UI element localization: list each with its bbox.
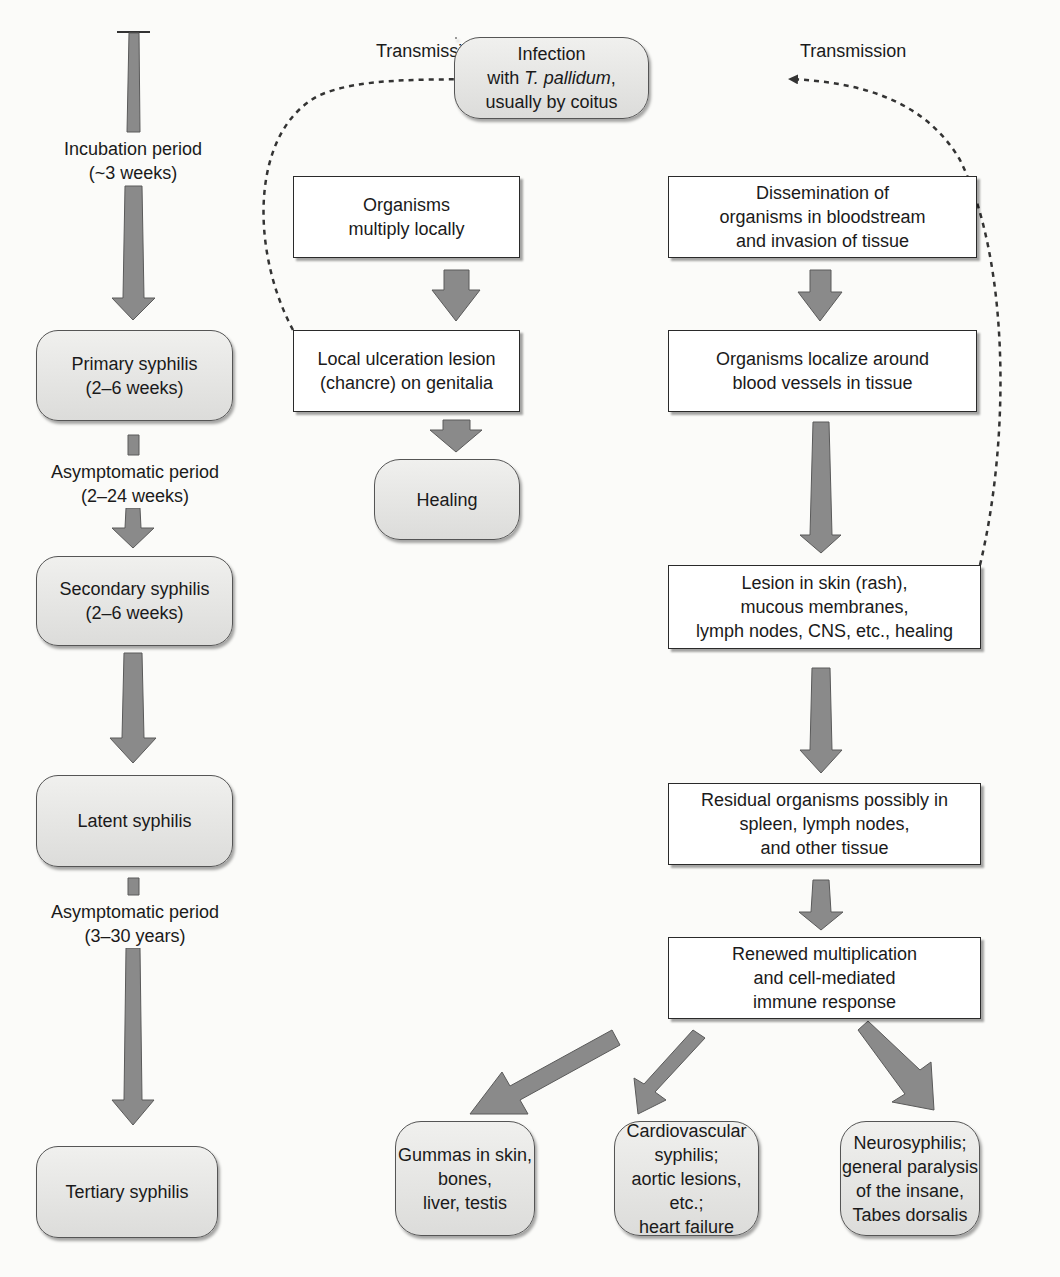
- gummas-node: Gummas in skin, bones, liver, testis: [395, 1121, 535, 1236]
- transmission-label-right: Transmission: [800, 40, 906, 62]
- timeline-arrow-primary-shaft: [128, 435, 139, 455]
- timeline-arrow-latent-shaft: [128, 878, 139, 895]
- dissemination-node: Dissemination of organisms in bloodstrea…: [668, 176, 977, 258]
- asymptomatic-period-1-label: Asymptomatic period (2–24 weeks): [30, 460, 240, 508]
- secondary-syphilis-node: Secondary syphilis (2–6 weeks): [36, 556, 233, 646]
- residual-organisms-node: Residual organisms possibly in spleen, l…: [668, 783, 981, 865]
- arrow-residual-to-renewed: [799, 880, 843, 930]
- timeline-arrow-secondary-to-latent: [110, 653, 156, 763]
- arrow-ulceration-to-healing: [430, 420, 482, 452]
- incubation-period-label: Incubation period (~3 weeks): [40, 137, 226, 185]
- asymptomatic-period-2-label: Asymptomatic period (3–30 years): [30, 900, 240, 948]
- arrow-renewed-to-cardiovascular: [634, 1030, 705, 1114]
- infection-node: Infection with T. pallidum, usually by c…: [454, 37, 649, 119]
- arrow-multiply-to-ulceration: [432, 270, 480, 321]
- organisms-localize-node: Organisms localize around blood vessels …: [668, 330, 977, 412]
- cardiovascular-syphilis-node: Cardiovascular syphilis; aortic lesions,…: [614, 1121, 759, 1236]
- neurosyphilis-node: Neurosyphilis; general paralysis of the …: [840, 1121, 980, 1236]
- arrow-lesion-to-residual: [800, 668, 842, 773]
- latent-syphilis-node: Latent syphilis: [36, 775, 233, 867]
- infection-line2: with T. pallidum,: [485, 66, 617, 90]
- local-ulceration-node: Local ulceration lesion (chancre) on gen…: [293, 330, 520, 412]
- renewed-multiplication-node: Renewed multiplication and cell-mediated…: [668, 937, 981, 1019]
- infection-node: [455, 37, 457, 39]
- arrow-dissemination-to-localize: [798, 270, 842, 321]
- arrow-renewed-to-neuro: [858, 1021, 934, 1110]
- timeline-arrow-to-tertiary: [112, 948, 154, 1125]
- tertiary-syphilis-node: Tertiary syphilis: [36, 1146, 218, 1238]
- timeline-arrow-incubation-to-primary: [112, 186, 155, 320]
- timeline-arrow-to-secondary: [112, 508, 154, 548]
- arrow-localize-to-lesion: [800, 422, 841, 553]
- arrow-renewed-to-gummas: [470, 1030, 620, 1114]
- primary-syphilis-node: Primary syphilis (2–6 weeks): [36, 330, 233, 421]
- timeline-arrow-1-shaft: [127, 33, 140, 132]
- organisms-multiply-locally-node: Organisms multiply locally: [293, 176, 520, 258]
- lesion-in-skin-node: Lesion in skin (rash), mucous membranes,…: [668, 565, 981, 649]
- healing-node: Healing: [374, 459, 520, 540]
